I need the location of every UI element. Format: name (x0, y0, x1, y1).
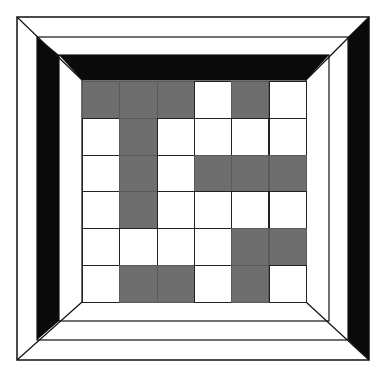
tile-filled (119, 155, 157, 193)
tile-empty (231, 118, 269, 156)
tile-empty (194, 81, 232, 119)
tile-empty (194, 265, 232, 303)
tile-empty (269, 81, 307, 119)
tile-filled (269, 228, 307, 266)
tile-empty (231, 191, 269, 229)
tile-filled (119, 191, 157, 229)
perspective-frame-diagram (0, 0, 382, 369)
tile-empty (82, 265, 120, 303)
tile-grid (82, 81, 306, 302)
tile-empty (194, 228, 232, 266)
tile-empty (157, 191, 195, 229)
tile-filled (231, 228, 269, 266)
tile-filled (194, 155, 232, 193)
tile-empty (157, 228, 195, 266)
tile-empty (82, 118, 120, 156)
tile-empty (194, 191, 232, 229)
tile-filled (157, 81, 195, 119)
tile-filled (269, 155, 307, 193)
tile-empty (82, 191, 120, 229)
tile-filled (119, 265, 157, 303)
tile-empty (157, 155, 195, 193)
tile-filled (231, 81, 269, 119)
tile-filled (82, 81, 120, 119)
tile-empty (82, 228, 120, 266)
tile-filled (119, 118, 157, 156)
tile-filled (119, 81, 157, 119)
tile-empty (82, 155, 120, 193)
tile-empty (269, 118, 307, 156)
tile-empty (119, 228, 157, 266)
right-black-band (348, 17, 369, 360)
tile-empty (269, 265, 307, 303)
tile-filled (231, 265, 269, 303)
tile-empty (194, 118, 232, 156)
tile-filled (231, 155, 269, 193)
tile-empty (269, 191, 307, 229)
top-black-band (59, 55, 329, 80)
left-black-band (37, 37, 59, 340)
tile-filled (157, 265, 195, 303)
tile-empty (157, 118, 195, 156)
